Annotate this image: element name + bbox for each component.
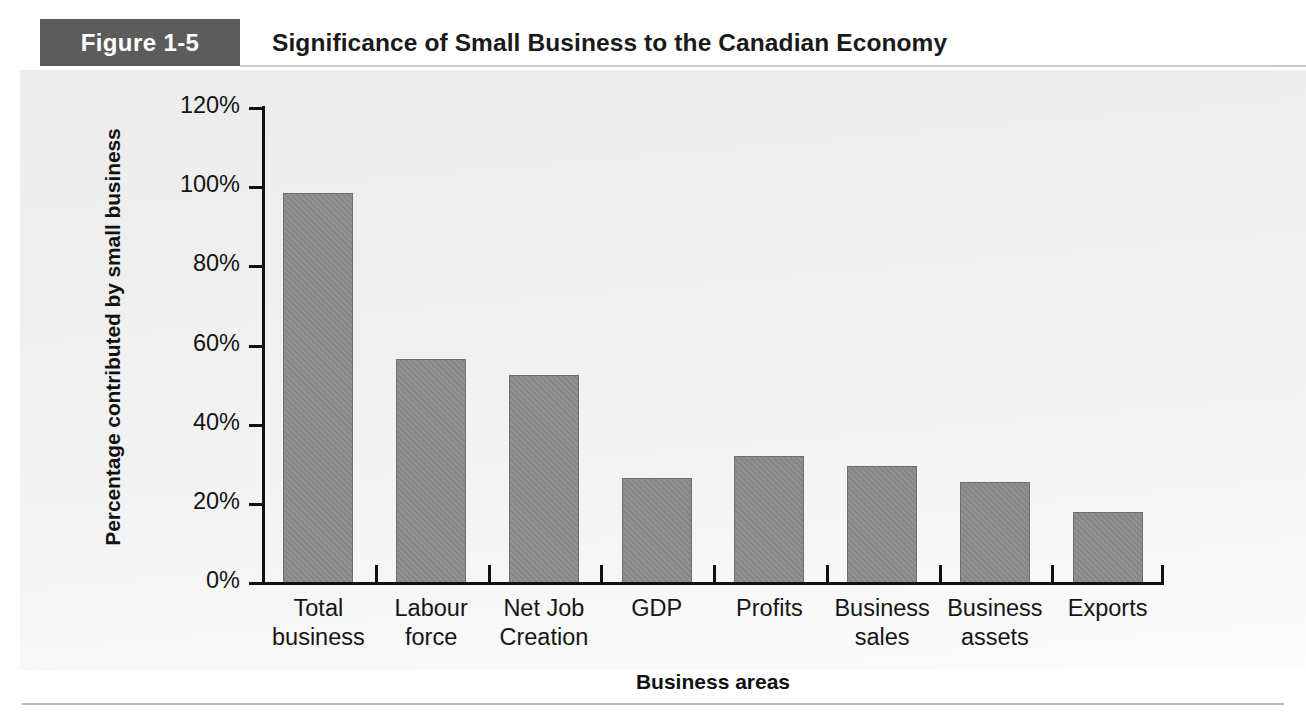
bar (734, 456, 804, 583)
x-axis-category-label-line: Exports (1037, 594, 1178, 623)
x-axis-category-label-line: Creation (474, 623, 615, 652)
y-axis-tick-label: 40% (130, 409, 240, 436)
x-axis-category-label: Exports (1037, 594, 1178, 623)
bar (1073, 512, 1143, 583)
x-axis-line (262, 582, 1164, 585)
bar (960, 482, 1030, 583)
figure-number-badge: Figure 1-5 (40, 19, 240, 66)
x-axis-tick (939, 565, 942, 583)
y-axis-line (262, 106, 265, 585)
x-axis-tick (1051, 565, 1054, 583)
bar (622, 478, 692, 583)
y-axis-tick-label: 60% (130, 330, 240, 357)
bar (396, 359, 466, 583)
x-axis-category-label-line: assets (925, 623, 1066, 652)
figure-number-label: Figure 1-5 (81, 29, 200, 57)
y-axis-tick-label: 80% (130, 250, 240, 277)
figure-footer-divider (22, 703, 1284, 705)
bar (283, 193, 353, 583)
header-divider (240, 65, 1306, 67)
bar (509, 375, 579, 583)
y-axis-tick-label: 20% (130, 488, 240, 515)
bar (847, 466, 917, 583)
x-axis-tick (826, 565, 829, 583)
y-axis-title: Percentage contributed by small business (101, 127, 125, 547)
y-axis-tick-label: 120% (130, 92, 240, 119)
y-axis-tick-label: 0% (130, 567, 240, 594)
x-axis-tick (488, 565, 491, 583)
x-axis-tick (375, 565, 378, 583)
figure-title: Significance of Small Business to the Ca… (272, 20, 947, 66)
figure-header: Figure 1-5 Significance of Small Busines… (0, 0, 1306, 72)
x-axis-title: Business areas (262, 670, 1164, 694)
y-axis-tick-label: 100% (130, 171, 240, 198)
figure-container: Figure 1-5 Significance of Small Busines… (0, 0, 1306, 719)
x-axis-tick (713, 565, 716, 583)
chart-plot-area: Percentage contributed by small business… (20, 70, 1306, 670)
x-axis-tick (600, 565, 603, 583)
